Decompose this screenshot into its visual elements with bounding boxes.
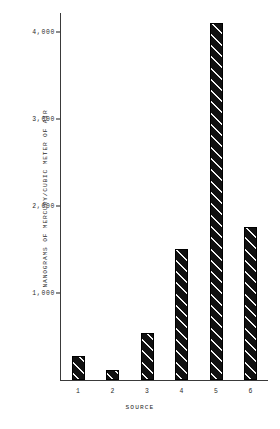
x-tick-label: 6: [241, 388, 261, 395]
plot-area: [61, 10, 268, 380]
x-tick-label: 2: [103, 388, 123, 395]
bar: [244, 227, 257, 380]
bar: [106, 370, 119, 380]
y-tick-label: 1,000: [32, 289, 55, 296]
bar-chart-figure: NANOGRAMS OF MERCURY/CUBIC METER OF AIR …: [0, 0, 280, 429]
x-tick-label: 5: [206, 388, 226, 395]
y-tick-label: 2,000: [32, 202, 55, 209]
bar: [141, 333, 154, 380]
y-tick-mark: [56, 31, 60, 32]
x-tick-label: 1: [68, 388, 88, 395]
bar: [175, 249, 188, 380]
x-axis-line: [60, 380, 268, 381]
y-tick-label: 3,000: [32, 115, 55, 122]
y-tick-label: 4,000: [32, 28, 55, 35]
y-tick-mark: [56, 205, 60, 206]
bar: [72, 356, 85, 380]
x-tick-label: 4: [172, 388, 192, 395]
y-tick-mark: [56, 118, 60, 119]
x-axis-title: SOURCE: [0, 404, 280, 411]
y-tick-mark: [56, 292, 60, 293]
bar: [210, 23, 223, 380]
y-axis-title: NANOGRAMS OF MERCURY/CUBIC METER OF AIR: [42, 49, 49, 349]
x-tick-label: 3: [137, 388, 157, 395]
